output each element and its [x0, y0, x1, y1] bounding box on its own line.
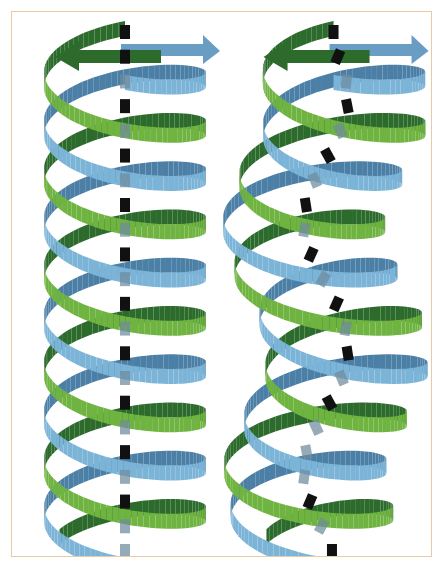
blue-ribbon-front: [53, 430, 56, 448]
green-ribbon-front: [50, 378, 53, 396]
blue-ribbon-back: [158, 354, 164, 369]
blue-ribbon-front: [191, 367, 194, 383]
blue-ribbon-front: [195, 174, 198, 190]
green-ribbon-front: [72, 202, 77, 219]
blue-ribbon-front: [109, 168, 115, 185]
green-ribbon-back: [153, 306, 159, 321]
blue-ribbon-front: [378, 463, 381, 479]
blue-ribbon-back: [377, 162, 381, 177]
green-ribbon-front: [394, 416, 397, 431]
green-ribbon-front: [342, 514, 348, 529]
green-ribbon-front: [100, 503, 106, 520]
green-ribbon-front: [131, 510, 137, 526]
blue-ribbon-front: [185, 272, 189, 287]
blue-ribbon-back: [152, 355, 158, 370]
blue-ribbon-front: [366, 272, 371, 287]
axis-dash: [298, 469, 310, 484]
green-ribbon-front: [387, 320, 392, 335]
green-ribbon-back: [322, 22, 328, 38]
blue-ribbon-front: [332, 271, 338, 286]
green-ribbon-front: [303, 402, 308, 419]
green-ribbon-back: [369, 307, 375, 323]
axis-dash: [120, 247, 130, 261]
blue-ribbon-front: [61, 533, 65, 551]
blue-ribbon-front: [290, 455, 295, 472]
blue-ribbon-front: [145, 561, 151, 577]
blue-ribbon-front: [306, 268, 313, 284]
blue-ribbon-front: [301, 351, 307, 368]
green-ribbon-front: [374, 127, 380, 142]
green-ribbon-front: [280, 503, 286, 520]
blue-ribbon-back: [72, 84, 77, 101]
green-ribbon-front: [347, 414, 353, 430]
green-ribbon-front: [250, 194, 253, 212]
green-ribbon-back: [76, 131, 81, 148]
green-ribbon-back: [226, 446, 228, 464]
green-ribbon-front: [113, 507, 119, 523]
green-ribbon-front: [104, 215, 110, 232]
green-ribbon-front: [202, 316, 204, 332]
green-ribbon-front: [150, 320, 156, 335]
green-ribbon-front: [145, 126, 151, 142]
blue-ribbon-front: [339, 560, 346, 576]
green-ribbon-front: [359, 513, 364, 528]
blue-ribbon-back: [48, 104, 50, 122]
blue-ribbon-back: [269, 104, 271, 122]
green-ribbon-back: [72, 519, 77, 536]
green-ribbon-back: [383, 113, 389, 128]
green-ribbon-front: [285, 392, 289, 410]
axis-dash: [120, 173, 130, 187]
green-ribbon-front: [201, 509, 203, 525]
blue-ribbon-back: [299, 82, 304, 99]
blue-ribbon-front: [187, 561, 191, 576]
green-ribbon-back: [68, 521, 73, 539]
blue-ribbon-back: [367, 161, 372, 176]
green-ribbon-front: [54, 286, 57, 304]
green-ribbon-front: [283, 304, 289, 321]
blue-ribbon-front: [49, 521, 51, 539]
blue-ribbon-front: [51, 234, 54, 252]
blue-ribbon-back: [45, 303, 46, 321]
blue-ribbon-front: [371, 272, 375, 287]
green-ribbon-back: [285, 128, 291, 145]
green-ribbon-front: [253, 197, 257, 215]
drawing-layer: [44, 21, 429, 577]
axis-dash: [120, 149, 130, 163]
green-ribbon-front: [226, 469, 228, 487]
green-ribbon-back: [159, 306, 165, 321]
blue-ribbon-front: [406, 368, 410, 383]
blue-ribbon-front: [416, 76, 419, 92]
blue-ribbon-back: [66, 377, 70, 395]
green-ribbon-back: [77, 516, 82, 533]
blue-ribbon-front: [196, 463, 199, 479]
blue-ribbon-front: [270, 332, 273, 350]
green-ribbon-front: [74, 107, 79, 124]
green-ribbon-front: [297, 107, 302, 124]
blue-ribbon-front: [56, 433, 59, 451]
blue-ribbon-back: [270, 463, 275, 480]
green-ribbon-front: [368, 126, 374, 142]
green-ribbon-back: [381, 403, 385, 418]
blue-ribbon-front: [336, 172, 342, 188]
green-ribbon-front: [165, 224, 170, 239]
green-ribbon-front: [242, 280, 245, 298]
green-ribbon-front: [50, 185, 53, 203]
axis-dash: [120, 396, 130, 410]
green-ribbon-front: [252, 492, 257, 509]
blue-ribbon-front: [180, 465, 184, 480]
blue-ribbon-front: [372, 562, 378, 577]
blue-ribbon-back: [70, 182, 75, 200]
blue-ribbon-back: [47, 202, 49, 220]
green-ribbon-front: [159, 417, 165, 432]
green-ribbon-front: [186, 320, 190, 335]
axis-dash: [120, 25, 130, 39]
green-ribbon-front: [108, 119, 114, 136]
blue-ribbon-front: [45, 126, 46, 144]
blue-ribbon-front: [85, 353, 91, 370]
green-ribbon-front: [323, 315, 330, 331]
blue-ribbon-front: [164, 176, 169, 191]
green-ribbon-front: [48, 182, 50, 200]
blue-ribbon-back: [265, 465, 270, 482]
blue-ribbon-front: [191, 174, 194, 190]
blue-ribbon-front: [274, 145, 277, 163]
